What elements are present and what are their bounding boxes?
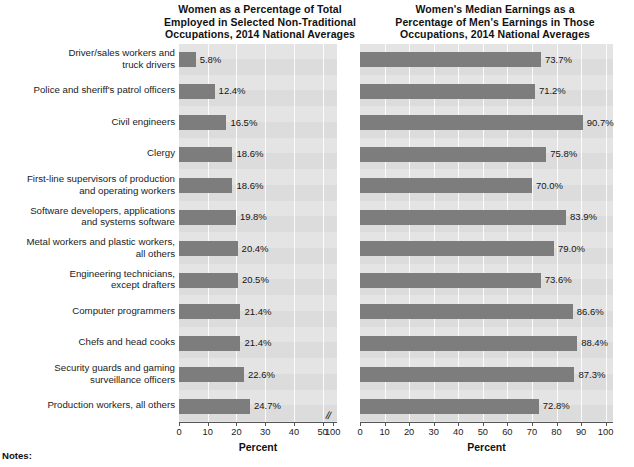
category-label-line: Driver/sales workers and <box>0 47 175 59</box>
bar-value-label: 72.8% <box>543 400 570 411</box>
axis-line <box>360 422 613 423</box>
bar <box>179 178 232 193</box>
bar-value-label: 22.6% <box>248 369 275 380</box>
axis-tick <box>265 422 266 426</box>
bar-value-label: 18.6% <box>236 148 263 159</box>
bar <box>360 367 574 382</box>
axis-tick <box>333 422 334 426</box>
category-label-line: Chefs and head cooks <box>0 336 175 348</box>
axis-tick <box>507 422 508 426</box>
left-chart-plot-area: 5.8%12.4%16.5%18.6%18.6%19.8%20.4%20.5%2… <box>179 44 337 422</box>
bar <box>179 84 215 99</box>
bar <box>360 115 583 130</box>
gridline <box>236 44 237 422</box>
category-label: Driver/sales workers andtruck drivers <box>0 47 175 70</box>
axis-tick <box>483 422 484 426</box>
bar <box>360 147 546 162</box>
axis-tick-label: 40 <box>280 427 308 437</box>
gridline <box>483 44 484 422</box>
category-label: Civil engineers <box>0 116 175 128</box>
bar-value-label: 86.6% <box>577 306 604 317</box>
category-label: First-line supervisors of productionand … <box>0 173 175 196</box>
bar-value-label: 21.4% <box>244 306 271 317</box>
bar <box>360 178 532 193</box>
gridline <box>458 44 459 422</box>
bar <box>360 52 541 67</box>
bar-value-label: 20.4% <box>242 243 269 254</box>
category-label-line: Metal workers and plastic workers, <box>0 236 175 248</box>
gridline <box>294 44 295 422</box>
category-label: Clergy <box>0 147 175 159</box>
axis-tick <box>385 422 386 426</box>
gridline <box>507 44 508 422</box>
category-label: Production workers, all others <box>0 399 175 411</box>
right-chart-title: Women's Median Earnings as aPercentage o… <box>372 3 618 41</box>
bar <box>179 399 250 414</box>
category-label-line: Clergy <box>0 147 175 159</box>
category-label-line: surveillance officers <box>0 374 175 386</box>
title-line: Occupations, 2014 National Averages <box>372 28 618 41</box>
bar <box>360 399 539 414</box>
category-label-line: Software developers, applications <box>0 205 175 217</box>
axis-tick-label: 0 <box>165 427 193 437</box>
category-axis-labels: Driver/sales workers andtruck driversPol… <box>0 44 175 422</box>
right-chart-axis-title: Percent <box>340 441 633 453</box>
bar <box>179 210 236 225</box>
bar <box>179 52 196 67</box>
gridline <box>581 44 582 422</box>
title-line: Women's Median Earnings as a <box>372 3 618 16</box>
bar-value-label: 90.7% <box>587 117 614 128</box>
axis-tick <box>360 422 361 426</box>
bar-value-label: 73.6% <box>545 274 572 285</box>
category-label-line: Security guards and gaming <box>0 362 175 374</box>
bar <box>179 367 244 382</box>
category-label-line: Computer programmers <box>0 305 175 317</box>
axis-tick <box>606 422 607 426</box>
bar-value-label: 87.3% <box>578 369 605 380</box>
gridline <box>557 44 558 422</box>
bar <box>360 241 554 256</box>
bar <box>179 336 240 351</box>
category-label-line: and operating workers <box>0 185 175 197</box>
axis-tick <box>294 422 295 426</box>
bar <box>179 115 226 130</box>
gridline <box>606 44 607 422</box>
bar-value-label: 75.8% <box>550 148 577 159</box>
title-line: Percentage of Men's Earnings in Those <box>372 16 618 29</box>
bar <box>360 84 535 99</box>
bar-value-label: 18.6% <box>236 180 263 191</box>
category-label: Engineering technicians,except drafters <box>0 268 175 291</box>
left-chart-axis-title: Percent <box>159 441 357 453</box>
category-label: Police and sheriff's patrol officers <box>0 84 175 96</box>
title-line: Occupations, 2014 National Averages <box>152 28 368 41</box>
axis-tick <box>236 422 237 426</box>
title-line: Employed in Selected Non-Traditional <box>152 16 368 29</box>
gridline <box>265 44 266 422</box>
axis-tick <box>532 422 533 426</box>
axis-tick <box>409 422 410 426</box>
bar-value-label: 12.4% <box>219 85 246 96</box>
bar-value-label: 5.8% <box>200 54 222 65</box>
category-label: Chefs and head cooks <box>0 336 175 348</box>
bar <box>179 241 238 256</box>
category-label: Security guards and gamingsurveillance o… <box>0 362 175 385</box>
bar-value-label: 88.4% <box>581 337 608 348</box>
axis-tick <box>434 422 435 426</box>
bar-value-label: 24.7% <box>254 400 281 411</box>
axis-tick <box>179 422 180 426</box>
category-label-line: First-line supervisors of production <box>0 173 175 185</box>
gridline <box>323 44 324 422</box>
axis-tick <box>208 422 209 426</box>
left-chart-title: Women as a Percentage of TotalEmployed i… <box>152 3 368 41</box>
bar-value-label: 79.0% <box>558 243 585 254</box>
gridline <box>385 44 386 422</box>
bar-value-label: 21.4% <box>244 337 271 348</box>
gridline <box>208 44 209 422</box>
bar <box>179 304 240 319</box>
title-line: Women as a Percentage of Total <box>152 3 368 16</box>
gridline <box>409 44 410 422</box>
gridline <box>532 44 533 422</box>
axis-tick <box>458 422 459 426</box>
bar-value-label: 73.7% <box>545 54 572 65</box>
notes-label: Notes: <box>2 450 32 461</box>
